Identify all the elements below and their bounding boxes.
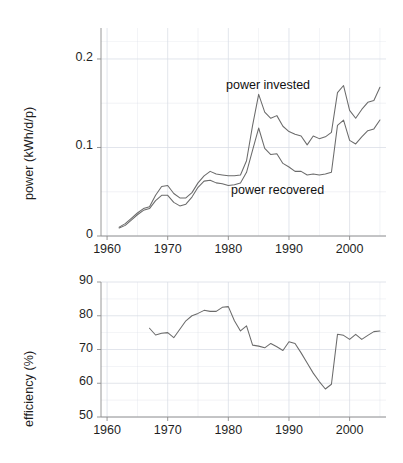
series-line-1	[150, 307, 380, 389]
x-tick-label: 1960	[77, 242, 137, 256]
figure-container: power (kWh/d/p) 00.10.219601970198019902…	[0, 0, 403, 463]
y-tick-label: 70	[39, 341, 93, 355]
x-tick-label: 1980	[198, 242, 258, 256]
efficiency-axis-label: efficiency (%)	[22, 351, 36, 427]
x-tick-label: 1960	[77, 423, 137, 437]
y-tick-label: 0.1	[39, 138, 93, 152]
x-tick-label: 2000	[320, 242, 380, 256]
power-recovered-label: power recovered	[231, 183, 324, 197]
x-tick-label: 1990	[259, 242, 319, 256]
x-tick-label: 1980	[198, 423, 258, 437]
x-tick-label: 1970	[138, 242, 198, 256]
y-tick-label: 80	[39, 307, 93, 321]
y-tick-label: 60	[39, 374, 93, 388]
series-line-1	[119, 86, 380, 228]
power-chart-plot	[0, 0, 403, 262]
x-tick-label: 2000	[320, 423, 380, 437]
y-tick-label: 90	[39, 273, 93, 287]
series-line-2	[119, 120, 380, 228]
power-invested-label: power invested	[226, 78, 310, 92]
y-tick-label: 0.2	[39, 50, 93, 64]
y-tick-label: 50	[39, 408, 93, 422]
y-tick-label: 0	[39, 227, 93, 241]
x-tick-label: 1970	[138, 423, 198, 437]
x-tick-label: 1990	[259, 423, 319, 437]
efficiency-chart-panel: efficiency (%) 5060708090196019701980199…	[0, 262, 403, 463]
power-axis-label: power (kWh/d/p)	[22, 107, 36, 200]
power-chart-panel: power (kWh/d/p) 00.10.219601970198019902…	[0, 0, 403, 262]
